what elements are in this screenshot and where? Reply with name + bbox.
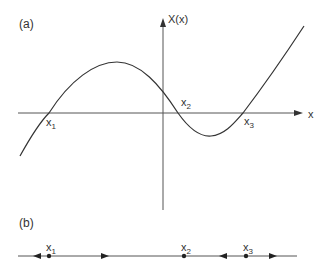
flow-arrow-right-icon [269,253,277,259]
root-label-x1: x1 [46,116,57,131]
x-axis-arrow-icon [294,110,303,116]
flow-arrow-right-icon [101,253,109,259]
y-axis-arrow-icon [160,18,166,27]
panel-b: (b) x1 x2 x3 [18,216,297,259]
root-label-x2: x2 [181,96,192,111]
function-curve [20,26,304,156]
fixed-point-label-x3: x3 [243,241,254,256]
fixed-point-label-x1: x1 [46,241,57,256]
panel-a: (a) x X(x) x1 x2 x3 [18,13,314,210]
diagram-canvas: (a) x X(x) x1 x2 x3 (b) x1 x2 x3 [0,0,328,277]
panel-a-label: (a) [19,17,34,31]
flow-arrow-left-icon [219,253,227,259]
flow-arrow-left-icon [33,253,41,259]
fixed-point-label-x2: x2 [181,241,192,256]
y-axis-label: X(x) [168,13,188,25]
root-label-x3: x3 [244,115,255,130]
panel-b-label: (b) [19,216,34,230]
x-axis-label: x [308,108,314,120]
